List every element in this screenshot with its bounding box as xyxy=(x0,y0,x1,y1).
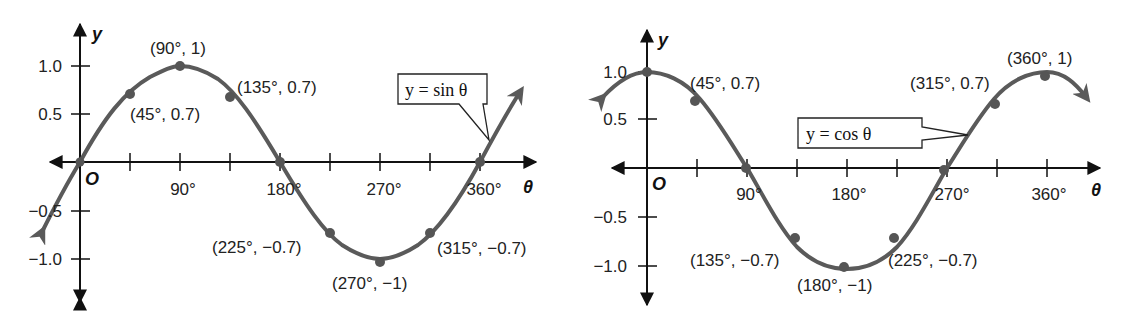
x-tick-label: 360° xyxy=(466,180,501,199)
point-label: (135°, 0.7) xyxy=(237,78,317,97)
x-tick-label: 270° xyxy=(934,185,969,204)
y-tick-label: 0.5 xyxy=(603,110,627,129)
y-axis-label: y xyxy=(657,30,669,50)
x-tick-label: 180° xyxy=(831,185,866,204)
point-label: (315°, −0.7) xyxy=(437,239,527,258)
y-axis-label: y xyxy=(91,24,103,44)
cosine-chart: y θ O 1.0 0.5 −0.5 −1.0 90° 180° 270° 36… xyxy=(593,30,1101,305)
function-label: y = cos θ xyxy=(806,124,871,144)
x-axis-label: θ xyxy=(1091,180,1101,200)
y-tick-label: −0.5 xyxy=(28,202,62,221)
y-tick-label: −0.5 xyxy=(593,208,627,227)
cosine-points xyxy=(642,67,1050,272)
origin-label: O xyxy=(652,174,666,194)
cosine-curve xyxy=(602,72,1086,269)
origin-label: O xyxy=(85,169,99,189)
y-tick-label: −1.0 xyxy=(28,250,62,269)
sine-callout: y = sin θ xyxy=(398,74,489,140)
x-tick-label: 90° xyxy=(736,185,762,204)
point-label: (360°, 1) xyxy=(1007,49,1072,68)
y-tick-label: −1.0 xyxy=(593,257,627,276)
y-tick-label: 0.5 xyxy=(38,105,62,124)
x-tick-label: 90° xyxy=(170,180,196,199)
x-tick-label: 180° xyxy=(266,180,301,199)
y-tick-label: 1.0 xyxy=(603,63,627,82)
x-axis-label: θ xyxy=(523,177,533,197)
point-label: (270°, −1) xyxy=(332,274,407,293)
function-label: y = sin θ xyxy=(405,80,467,100)
point-label: (315°, 0.7) xyxy=(910,74,990,93)
point-label: (225°, −0.7) xyxy=(888,251,978,270)
point-label: (45°, 0.7) xyxy=(130,105,200,124)
sine-chart: y θ O 1.0 0.5 −0.5 −1.0 90° 180° 270° 36… xyxy=(28,24,536,302)
point-label: (45°, 0.7) xyxy=(690,74,760,93)
point-label: (90°, 1) xyxy=(150,39,206,58)
x-tick-label: 360° xyxy=(1031,185,1066,204)
trig-graphs: y θ O 1.0 0.5 −0.5 −1.0 90° 180° 270° 36… xyxy=(0,0,1126,319)
point-label: (180°, −1) xyxy=(797,276,872,295)
cosine-callout: y = cos θ xyxy=(798,118,968,148)
x-tick-label: 270° xyxy=(366,180,401,199)
y-tick-label: 1.0 xyxy=(38,57,62,76)
point-label: (225°, −0.7) xyxy=(212,238,302,257)
point-label: (135°, −0.7) xyxy=(690,251,780,270)
